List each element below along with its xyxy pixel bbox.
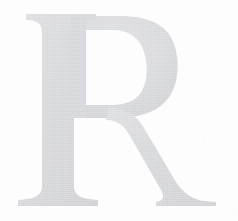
letter-r-glyph	[0, 0, 238, 221]
drop-cap-figure: R	[0, 0, 238, 221]
letter-r-leg	[106, 108, 216, 206]
scanned-page: R	[0, 0, 238, 221]
letter-r-bowl-stem-joint	[70, 16, 86, 118]
